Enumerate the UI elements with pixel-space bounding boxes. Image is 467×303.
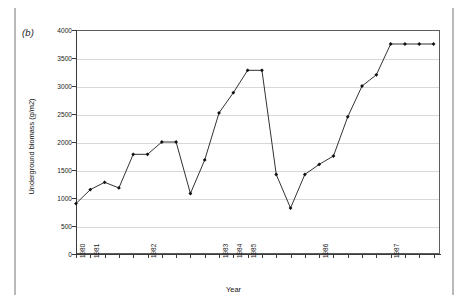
data-point-marker [174,140,178,144]
data-point-marker [289,206,293,210]
data-point-marker [260,68,264,72]
data-point-marker [346,115,350,119]
data-point-marker [389,42,393,46]
data-point-marker [131,152,135,156]
data-point-marker [203,158,207,162]
data-point-marker [332,154,336,158]
data-point-marker [403,42,407,46]
data-series-layer [0,0,467,303]
series-line-underground-biomass [76,44,434,208]
series-markers [74,42,435,210]
figure-panel-b: (b) 05001000150020002500300035004000 Und… [0,0,467,303]
data-point-marker [432,42,436,46]
data-point-marker [417,42,421,46]
data-point-marker [103,180,107,184]
data-point-marker [274,173,278,177]
data-point-marker [189,192,193,196]
data-point-marker [117,186,121,190]
